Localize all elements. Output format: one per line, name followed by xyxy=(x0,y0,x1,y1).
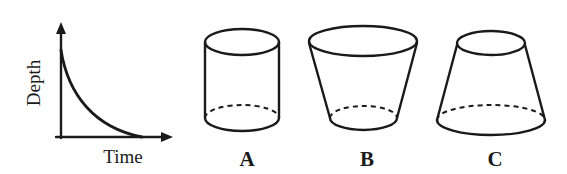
container-c-bottom-back xyxy=(437,105,545,120)
container-b-bottom-back xyxy=(330,106,397,118)
y-axis-label: Depth xyxy=(23,59,44,106)
container-c-bottom-front xyxy=(437,120,545,135)
container-a-bottom-front xyxy=(205,118,279,131)
label-b: B xyxy=(360,147,374,171)
container-a-top xyxy=(205,29,279,55)
y-axis-arrow-icon xyxy=(56,22,66,34)
label-c: C xyxy=(487,147,502,171)
container-b-right-edge xyxy=(397,43,417,118)
container-b: B xyxy=(309,26,417,171)
container-c: C xyxy=(437,31,545,171)
container-b-bottom-front xyxy=(330,118,397,130)
x-axis-arrow-icon xyxy=(161,132,173,142)
label-a: A xyxy=(239,147,255,171)
container-b-left-edge xyxy=(309,43,330,118)
container-a-bottom-back xyxy=(205,105,279,118)
container-c-right-edge xyxy=(525,45,545,120)
x-axis-label: Time xyxy=(103,146,142,167)
container-a: A xyxy=(205,29,279,171)
decay-curve xyxy=(61,50,142,137)
container-c-top xyxy=(457,31,525,55)
diagram-canvas: Depth Time A B C xyxy=(0,0,567,174)
container-b-top xyxy=(309,26,417,56)
depth-time-graph: Depth Time xyxy=(23,22,173,167)
